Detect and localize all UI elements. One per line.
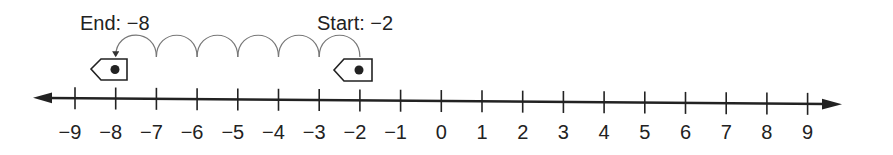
- jump-arc: [116, 35, 157, 57]
- number-line-diagram: −9−8−7−6−5−4−3−2−10123456789 End: −8 Sta…: [0, 0, 893, 155]
- ticks-group: [75, 87, 808, 115]
- start-dot-icon: [355, 66, 364, 75]
- tick-labels-group: −9−8−7−6−5−4−3−2−10123456789: [59, 121, 814, 143]
- tick-label: −8: [99, 121, 122, 143]
- right-arrowhead-icon: [822, 99, 842, 110]
- tick-label: −2: [343, 121, 366, 143]
- tick-label: −9: [59, 121, 82, 143]
- number-line-svg: −9−8−7−6−5−4−3−2−10123456789 End: −8 Sta…: [0, 0, 893, 155]
- end-dot-icon: [111, 65, 120, 74]
- tick-label: 9: [802, 121, 813, 143]
- tick-label: −4: [262, 121, 285, 143]
- tick-label: −1: [384, 121, 407, 143]
- jump-arc: [156, 35, 197, 57]
- axis: [33, 93, 842, 110]
- left-arrowhead-icon: [33, 93, 52, 104]
- jump-arc: [197, 35, 238, 57]
- tick-label: 4: [599, 121, 610, 143]
- jump-arcs: [116, 35, 360, 57]
- end-label: End: −8: [80, 12, 150, 34]
- end-marker: [91, 59, 127, 80]
- tick-label: 1: [476, 121, 487, 143]
- start-marker: [334, 59, 372, 81]
- tick-label: −3: [303, 121, 326, 143]
- tick-label: 0: [436, 121, 447, 143]
- start-label: Start: −2: [317, 12, 393, 34]
- end-tag-icon: [91, 59, 127, 80]
- jump-arc: [238, 35, 279, 57]
- jump-arc: [279, 35, 320, 57]
- tick-label: −5: [221, 121, 244, 143]
- jump-arc: [319, 35, 360, 57]
- tick-label: −7: [140, 121, 163, 143]
- tick-label: 2: [517, 121, 528, 143]
- tick-label: 7: [721, 121, 732, 143]
- tick-label: 8: [761, 121, 772, 143]
- tick-label: 6: [680, 121, 691, 143]
- tick-label: 5: [639, 121, 650, 143]
- tick-label: 3: [558, 121, 569, 143]
- start-tag-icon: [334, 59, 372, 81]
- tick-label: −6: [181, 121, 204, 143]
